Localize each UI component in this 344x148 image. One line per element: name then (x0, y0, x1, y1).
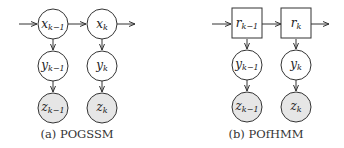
node-r-k: rk (281, 8, 311, 38)
node-z-km1: zk−1 (38, 93, 68, 123)
node-y-k: yk (87, 51, 117, 81)
node-y-km1: yk−1 (38, 51, 68, 81)
caption-a: (a) POGSSM (40, 127, 113, 141)
panel-a-pogssm: xk−1 xk yk−1 yk zk−1 zk (a) POGSSM (19, 9, 135, 141)
node-z-km1-b: zk−1 (232, 92, 262, 122)
node-z-k-b: zk (281, 92, 311, 122)
caption-b: (b) POfHMM (229, 127, 304, 141)
diagram-canvas: xk−1 xk yk−1 yk zk−1 zk (a) POGSSM (0, 0, 344, 148)
node-x-km1: xk−1 (38, 9, 68, 39)
node-r-km1: rk−1 (232, 8, 262, 38)
node-z-k: zk (87, 93, 117, 123)
node-y-k-b: yk (281, 50, 311, 80)
panel-b-pofhmm: rk−1 rk yk−1 yk zk−1 zk (b) POfHMM (212, 8, 329, 141)
node-x-k: xk (87, 9, 117, 39)
node-y-km1-b: yk−1 (232, 50, 262, 80)
